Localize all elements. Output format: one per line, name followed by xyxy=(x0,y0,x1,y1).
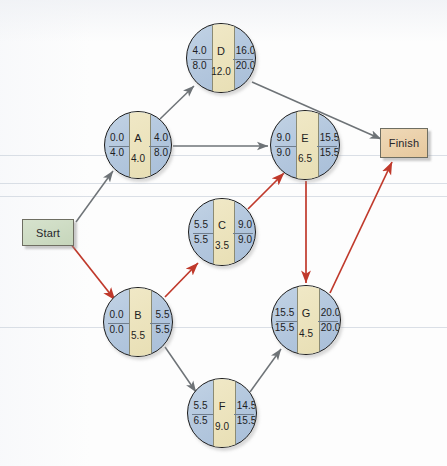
node-activity-label: F xyxy=(188,400,256,412)
node-center-band xyxy=(296,111,319,179)
activity-node-g[interactable]: 15.515.520.020.0G4.5 xyxy=(271,285,341,355)
node-duration: 4.0 xyxy=(105,153,171,164)
activity-node-e[interactable]: 9.09.015.515.5E6.5 xyxy=(270,110,340,180)
node-center-band xyxy=(213,379,236,447)
edge-g-to-finish xyxy=(330,162,392,293)
edge-b-to-f xyxy=(165,347,196,392)
node-center-band xyxy=(129,288,152,356)
node-center-band xyxy=(213,199,235,265)
node-activity-label: E xyxy=(271,132,339,144)
node-duration: 6.5 xyxy=(271,153,339,164)
node-duration: 5.5 xyxy=(104,330,172,341)
node-center-band xyxy=(297,286,320,354)
start-node[interactable]: Start xyxy=(22,219,74,246)
activity-node-b[interactable]: 0.00.05.55.5B5.5 xyxy=(103,287,173,357)
node-activity-label: G xyxy=(272,307,340,319)
node-activity-label: B xyxy=(104,309,172,321)
edge-c-to-e xyxy=(248,173,284,209)
node-activity-label: C xyxy=(189,219,255,231)
finish-node[interactable]: Finish xyxy=(380,128,428,158)
edge-a-to-d xyxy=(160,86,194,119)
node-duration: 3.5 xyxy=(189,240,255,251)
activity-node-f[interactable]: 5.56.514.515.5F9.0 xyxy=(187,378,257,448)
network-diagram-canvas: 4.08.016.020.0D12.00.04.04.08.0A4.09.09.… xyxy=(0,0,447,466)
node-center-band xyxy=(129,112,151,178)
node-duration: 4.5 xyxy=(272,328,340,339)
activity-node-d[interactable]: 4.08.016.020.0D12.0 xyxy=(186,23,256,93)
node-duration: 9.0 xyxy=(188,421,256,432)
activity-node-a[interactable]: 0.04.04.08.0A4.0 xyxy=(104,111,172,179)
edge-f-to-g xyxy=(250,349,281,392)
edge-start-to-a xyxy=(76,171,113,222)
activity-node-c[interactable]: 5.55.59.09.0C3.5 xyxy=(188,198,256,266)
node-activity-label: D xyxy=(187,45,255,57)
edge-start-to-b xyxy=(70,243,115,300)
edge-b-to-c xyxy=(165,263,198,297)
node-center-band xyxy=(212,24,235,92)
node-duration: 12.0 xyxy=(187,66,255,77)
node-activity-label: A xyxy=(105,132,171,144)
